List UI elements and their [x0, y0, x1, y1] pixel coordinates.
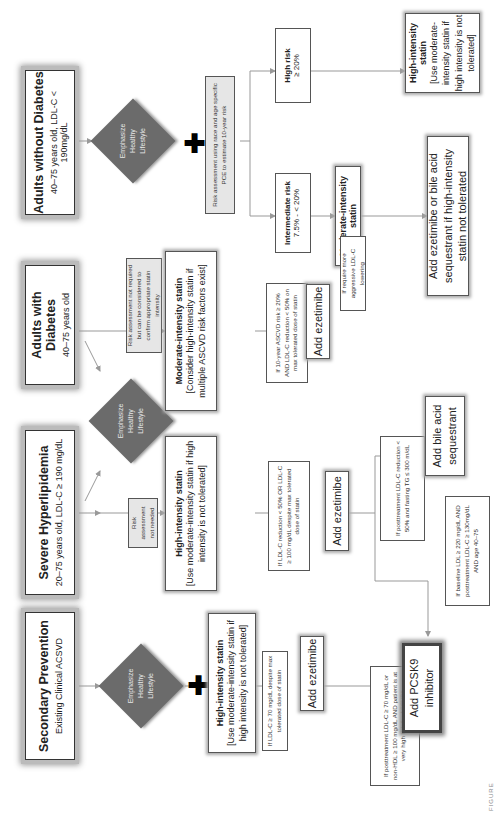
- header-adults-without-diabetes: Adults without Diabetes 40–75 years old,…: [25, 70, 75, 215]
- add-pcsk9-inhibitor: Add PCSK9 inhibitor: [402, 643, 442, 733]
- diamond-line: Healthy: [126, 409, 136, 433]
- header-title: Adults without Diabetes: [32, 71, 46, 213]
- diamond-line: Healthy: [136, 674, 146, 698]
- header-subtitle: 40–75 years old: [61, 293, 71, 357]
- lifestyle-diamond-secondary: Emphasize Healthy Lifestyle: [98, 643, 184, 729]
- intermediate-risk-title: Intermediate risk: [283, 181, 292, 245]
- statin-diabetes: Moderate-intensity statin [Consider high…: [165, 251, 217, 411]
- add-ezetimibe-severe: Add ezetimibe: [325, 471, 349, 551]
- flowchart: Secondary Prevention Existing Clinical A…: [0, 0, 502, 831]
- add-ezetimibe-or-bile-acid: Add ezetimibe or bile acid sequestrant i…: [427, 136, 469, 296]
- header-title: Severe Hyperlipidemia: [37, 445, 51, 579]
- risk-pce: Risk assessment using race and age speci…: [205, 76, 235, 214]
- header-subtitle: 20–75 years old, LDL-C ≥ 190 mg/dL: [54, 439, 64, 587]
- high-risk-box: High risk ≥ 20%: [275, 28, 311, 103]
- lifestyle-diamond-no-diabetes: Emphasize Healthy Lifestyle: [90, 98, 176, 184]
- statin-note: [Consider high-intensity statin if multi…: [184, 252, 208, 410]
- cond-severe-post: If posttreatment LDL-C reduction < 50% a…: [380, 436, 425, 541]
- diamond-line: Healthy: [128, 129, 138, 153]
- statin-title: High-intensity statin: [215, 640, 225, 727]
- diamond-line: Lifestyle: [146, 673, 156, 699]
- diamond-line: Emphasize: [118, 124, 128, 159]
- statin-note: [Use moderate-intensity statin if high i…: [184, 437, 208, 590]
- statin-secondary: High-intensity statin [Use moderate-inte…: [208, 613, 256, 753]
- cond-aggressive: If require more aggressive LDL-C lowerin…: [340, 236, 366, 311]
- statin-severe: High-intensity statin [Use moderate-inte…: [165, 436, 217, 591]
- add-ezetimibe-diabetes: Add ezetimibe: [306, 284, 330, 359]
- cond-secondary-ldl: If LDL-C ≥ 70 mg/dL despite max tolerate…: [262, 651, 288, 751]
- header-secondary-prevention: Secondary Prevention Existing Clinical A…: [25, 612, 75, 760]
- header-severe-hyperlipidemia: Severe Hyperlipidemia 20–75 years old, L…: [25, 430, 75, 595]
- header-subtitle: 40–75 years old, LDL-C < 190mg/dL: [49, 71, 69, 214]
- header-adults-with-diabetes: Adults with Diabetes 40–75 years old: [25, 265, 75, 385]
- diamond-line: Lifestyle: [138, 128, 148, 154]
- statin-title: High-intensity statin: [408, 14, 428, 92]
- header-title: Secondary Prevention: [37, 620, 51, 752]
- header-subtitle: Existing Clinical ACSVD: [54, 638, 64, 734]
- cond-severe-baseline: If baseline LDL ≥ 220 mg/dL AND posttrea…: [445, 496, 490, 606]
- lifestyle-diamond-shared: Emphasize Healthy Lifestyle: [88, 378, 174, 464]
- statin-title: High-intensity statin: [174, 470, 184, 557]
- high-risk-value: ≥ 20%: [292, 54, 303, 77]
- diamond-line: Lifestyle: [136, 408, 146, 434]
- statin-title: Moderate-intensity statin: [174, 278, 184, 385]
- cond-diabetes: If 10-year ASCVD risk ≥ 20% AND LDL-C re…: [266, 283, 308, 383]
- statin-note: [Use moderate-intensity statin if high i…: [225, 614, 249, 752]
- intermediate-risk-box: Intermediate risk 7.5% - < 20%: [275, 173, 311, 253]
- diamond-line: Emphasize: [116, 404, 126, 439]
- cond-severe-ldl: If LDL-C reduction < 50% OR LDL-C ≥ 100 …: [268, 461, 310, 571]
- statin-note: [Use moderate-intensity statin if high i…: [428, 14, 477, 92]
- high-risk-title: High risk: [283, 48, 292, 82]
- risk-not-needed: Risk assessment not needed: [128, 498, 158, 548]
- intermediate-risk-value: 7.5% - < 20%: [292, 189, 303, 237]
- header-title: Adults with Diabetes: [30, 266, 58, 384]
- statin-high-risk: High-intensity statin [Use moderate-inte…: [405, 13, 480, 93]
- figure-caption: FIGURE: [488, 782, 494, 811]
- add-ezetimibe-secondary: Add ezetimibe: [300, 636, 324, 711]
- add-bile-acid: Add bile acid sequestrant: [425, 396, 465, 476]
- diamond-line: Emphasize: [126, 669, 136, 704]
- risk-not-required: Risk assessment not required but can be …: [126, 258, 162, 353]
